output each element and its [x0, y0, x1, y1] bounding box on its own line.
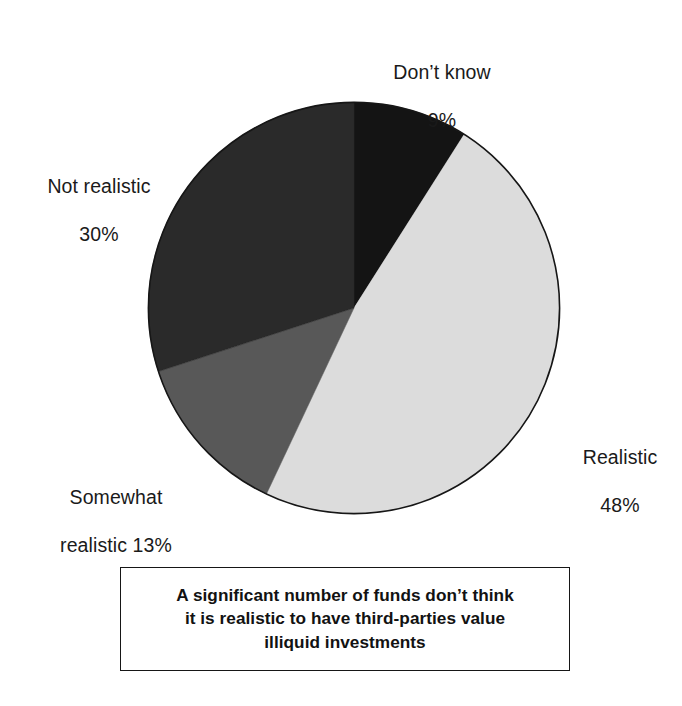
pie-label-realistic-name: Realistic — [560, 445, 680, 469]
pie-label-realistic-value: 48% — [560, 493, 680, 517]
pie-svg — [147, 101, 561, 515]
pie-label-not-realistic-value: 30% — [14, 222, 184, 246]
caption-line-2: it is realistic to have third-parties va… — [176, 607, 514, 631]
pie-label-somewhat-realistic-name: Somewhat — [26, 485, 206, 509]
pie-label-dont-know-name: Don’t know — [352, 60, 532, 84]
pie-label-dont-know-value: 9% — [352, 108, 532, 132]
caption-line-1: A significant number of funds don’t thin… — [176, 584, 514, 608]
pie-slice-group — [148, 102, 559, 513]
pie-label-not-realistic: Not realistic 30% — [14, 150, 184, 270]
pie-label-somewhat-realistic: Somewhat realistic 13% — [26, 461, 206, 581]
caption-line-3: illiquid investments — [176, 631, 514, 655]
pie-chart-figure: Don’t know 9% Not realistic 30% Somewhat… — [0, 0, 682, 706]
pie-label-somewhat-realistic-value: realistic 13% — [26, 533, 206, 557]
pie-label-realistic: Realistic 48% — [560, 421, 680, 541]
caption-text: A significant number of funds don’t thin… — [164, 584, 526, 655]
pie-chart — [147, 101, 561, 515]
caption-box: A significant number of funds don’t thin… — [120, 567, 570, 671]
pie-label-dont-know: Don’t know 9% — [352, 36, 532, 156]
pie-label-not-realistic-name: Not realistic — [14, 174, 184, 198]
